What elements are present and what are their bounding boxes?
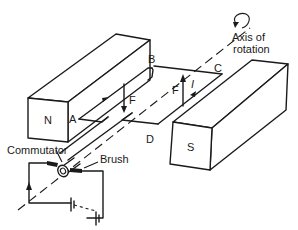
corner-label-d: D bbox=[146, 133, 154, 145]
corner-label-c: C bbox=[214, 62, 222, 74]
brush-label: Brush bbox=[100, 153, 129, 165]
commutator bbox=[56, 158, 80, 179]
north-pole-label: N bbox=[44, 114, 52, 126]
corner-label-b: B bbox=[148, 53, 155, 65]
rotation-arrow-icon bbox=[233, 13, 249, 28]
brush-right bbox=[70, 168, 82, 173]
dc-motor-diagram: N S A B C D F bbox=[0, 0, 298, 230]
commutator-label: Commutator bbox=[7, 144, 68, 156]
corner-label-a: A bbox=[69, 113, 77, 125]
battery-icon bbox=[71, 198, 99, 225]
north-magnet: N bbox=[28, 34, 150, 142]
south-pole-label: S bbox=[187, 141, 194, 153]
force-label-left: F bbox=[129, 94, 136, 106]
current-arrow-icon-cd bbox=[190, 91, 196, 97]
current-label: I bbox=[191, 78, 194, 90]
force-label-right: F bbox=[172, 84, 179, 96]
axis-label-line1: Axis of bbox=[232, 31, 266, 43]
axis-label-line2: rotation bbox=[233, 43, 270, 55]
brush-left bbox=[47, 161, 58, 167]
brush-pointer bbox=[84, 162, 98, 168]
